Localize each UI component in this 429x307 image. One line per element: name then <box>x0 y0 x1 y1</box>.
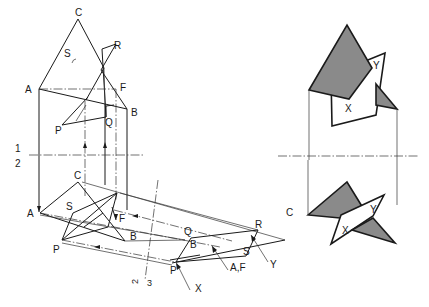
label-r-aux: R <box>255 219 262 230</box>
label-s-aux: S <box>243 246 250 257</box>
label-r: R <box>114 40 121 51</box>
left-elevation-view: C S R A F B P Q <box>25 7 138 212</box>
label-q-aux: Q <box>184 226 192 237</box>
descriptive-geometry-diagram: C S R A F B P Q 1 2 C A S F B P <box>0 0 429 307</box>
label-af-aux: A,F <box>230 262 246 273</box>
triangle-abc-left-edge <box>39 19 104 100</box>
label-x-aux: X <box>195 283 202 294</box>
label-a-plan: A <box>27 208 34 219</box>
label-c-plan: C <box>74 170 81 181</box>
projector-r <box>120 193 258 230</box>
label-s-plan: S <box>66 201 73 212</box>
label-c-aux: C <box>286 207 293 218</box>
reference-line-1-2: 1 2 <box>15 143 145 169</box>
label-2-aux: 2 <box>130 279 140 284</box>
label-a: A <box>25 84 32 95</box>
label-b: B <box>131 107 138 118</box>
auxiliary-projectors: 2 3 <box>40 180 285 288</box>
label-p: P <box>55 125 62 136</box>
right-plan-view: Y X <box>308 160 395 244</box>
label-1: 1 <box>15 143 21 154</box>
intersection-line <box>84 213 103 227</box>
left-plan-view: C A S F B P <box>27 170 137 255</box>
label-p-plan: P <box>53 244 60 255</box>
label-c: C <box>75 7 82 18</box>
label-x-lower: X <box>342 225 349 236</box>
arrow-left-icon <box>94 245 100 249</box>
label-f-plan: F <box>119 213 125 224</box>
right-elevation-view: Y X <box>309 25 397 205</box>
s-mark <box>72 59 76 63</box>
p-segment <box>170 255 200 260</box>
projector-p2 <box>62 243 172 265</box>
interior-line <box>104 68 105 104</box>
projector-a2 <box>40 215 185 240</box>
arrow-down-icon <box>37 206 41 212</box>
label-y-aux: Y <box>270 259 277 270</box>
label-3-aux: 3 <box>147 278 152 288</box>
edge-abc <box>172 240 285 263</box>
label-2: 2 <box>15 158 21 169</box>
arrow-left-icon <box>132 214 138 218</box>
label-p-aux: P <box>170 265 177 276</box>
label-s: S <box>64 48 71 59</box>
arrow-icon <box>176 263 181 270</box>
label-b-aux: B <box>190 239 197 250</box>
auxiliary-view: R C Q B S Y A,F P X <box>170 207 293 294</box>
triangle-abc-ab-edge <box>39 89 127 109</box>
intersection-trace <box>76 105 86 121</box>
label-y-upper: Y <box>373 60 380 71</box>
q-detail <box>106 105 114 117</box>
triangle-shade-tail <box>376 84 397 109</box>
label-f: F <box>120 82 126 93</box>
arrow-up-icon <box>103 142 107 148</box>
aux-reference-line <box>145 180 158 280</box>
projector-p <box>62 240 175 262</box>
arrow-up-icon <box>83 142 87 148</box>
label-q: Q <box>105 117 113 128</box>
label-b-plan: B <box>130 231 137 242</box>
label-x-upper: X <box>345 103 352 114</box>
label-y-lower: Y <box>370 204 377 215</box>
